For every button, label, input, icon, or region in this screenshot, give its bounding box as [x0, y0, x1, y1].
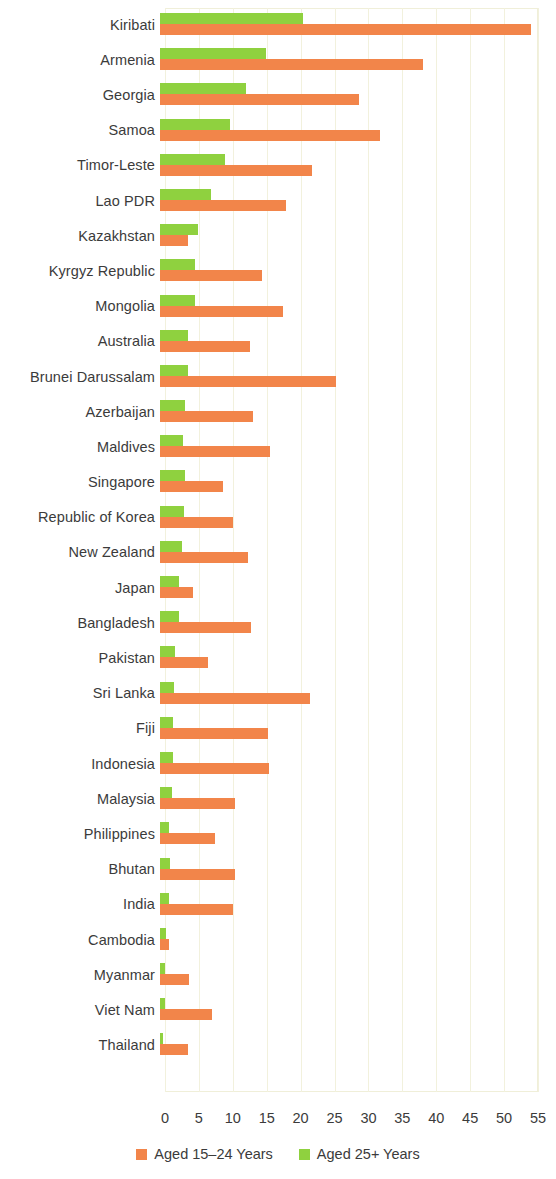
- bar-aged-15-24: [160, 1009, 212, 1020]
- bar-group: [160, 43, 556, 78]
- category-label: New Zealand: [0, 545, 160, 561]
- bar-row: Pakistan: [0, 641, 556, 676]
- bar-row: Kiribati: [0, 8, 556, 43]
- x-tick-label: 30: [360, 1110, 376, 1126]
- bar-group: [160, 430, 556, 465]
- bar-group: [160, 254, 556, 289]
- category-label: Georgia: [0, 88, 160, 104]
- bar-group: [160, 817, 556, 852]
- category-label: Mongolia: [0, 299, 160, 315]
- bar-group: [160, 78, 556, 113]
- category-label: Singapore: [0, 475, 160, 491]
- bar-aged-15-24: [160, 270, 262, 281]
- bar-aged-25-plus: [160, 858, 170, 869]
- bar-aged-15-24: [160, 59, 423, 70]
- bar-row: Samoa: [0, 114, 556, 149]
- bar-aged-25-plus: [160, 224, 198, 235]
- bar-aged-15-24: [160, 235, 188, 246]
- bar-aged-15-24: [160, 446, 270, 457]
- bar-group: [160, 395, 556, 430]
- category-label: Brunei Darussalam: [0, 370, 160, 386]
- bar-aged-15-24: [160, 165, 312, 176]
- bar-aged-15-24: [160, 798, 235, 809]
- bar-aged-25-plus: [160, 259, 195, 270]
- bar-aged-15-24: [160, 763, 269, 774]
- bar-aged-25-plus: [160, 928, 166, 939]
- bar-aged-25-plus: [160, 506, 184, 517]
- bar-aged-25-plus: [160, 295, 195, 306]
- bar-row: Georgia: [0, 78, 556, 113]
- bar-row: Bhutan: [0, 853, 556, 888]
- bar-row: Myanmar: [0, 958, 556, 993]
- bar-aged-15-24: [160, 974, 189, 985]
- bar-group: [160, 747, 556, 782]
- x-tick-label: 45: [462, 1110, 478, 1126]
- bar-aged-15-24: [160, 306, 283, 317]
- legend-item[interactable]: Aged 15–24 Years: [136, 1146, 273, 1162]
- x-tick-label: 40: [428, 1110, 444, 1126]
- bar-group: [160, 149, 556, 184]
- bar-row: Timor-Leste: [0, 149, 556, 184]
- bar-group: [160, 8, 556, 43]
- category-label: Armenia: [0, 53, 160, 69]
- category-label: Samoa: [0, 123, 160, 139]
- category-label: India: [0, 897, 160, 913]
- bar-aged-25-plus: [160, 822, 169, 833]
- bar-aged-25-plus: [160, 330, 188, 341]
- category-label: Timor-Leste: [0, 158, 160, 174]
- bar-aged-15-24: [160, 869, 235, 880]
- bar-row: Thailand: [0, 1028, 556, 1063]
- x-tick-label: 15: [259, 1110, 275, 1126]
- bar-group: [160, 606, 556, 641]
- bar-aged-15-24: [160, 939, 169, 950]
- bar-group: [160, 184, 556, 219]
- x-axis: 0510152025303540455055: [165, 1110, 538, 1134]
- bar-aged-25-plus: [160, 787, 172, 798]
- bar-aged-25-plus: [160, 400, 185, 411]
- bar-row: India: [0, 888, 556, 923]
- bar-group: [160, 923, 556, 958]
- bar-group: [160, 219, 556, 254]
- bar-aged-25-plus: [160, 470, 185, 481]
- bar-aged-15-24: [160, 130, 380, 141]
- bar-aged-25-plus: [160, 963, 165, 974]
- bar-row: Kazakhstan: [0, 219, 556, 254]
- x-tick-label: 25: [326, 1110, 342, 1126]
- x-tick-label: 10: [225, 1110, 241, 1126]
- bar-group: [160, 958, 556, 993]
- bar-row: Brunei Darussalam: [0, 360, 556, 395]
- bar-row: Singapore: [0, 465, 556, 500]
- bar-row: Azerbaijan: [0, 395, 556, 430]
- bar-row: Philippines: [0, 817, 556, 852]
- bar-group: [160, 993, 556, 1028]
- bar-aged-25-plus: [160, 893, 169, 904]
- category-label: Indonesia: [0, 757, 160, 773]
- bar-rows: KiribatiArmeniaGeorgiaSamoaTimor-LesteLa…: [0, 8, 556, 1064]
- bar-group: [160, 641, 556, 676]
- bar-aged-25-plus: [160, 365, 188, 376]
- bar-aged-15-24: [160, 376, 336, 387]
- bar-row: Kyrgyz Republic: [0, 254, 556, 289]
- bar-aged-15-24: [160, 833, 215, 844]
- x-tick-label: 0: [161, 1110, 169, 1126]
- x-tick-label: 50: [496, 1110, 512, 1126]
- bar-chart: KiribatiArmeniaGeorgiaSamoaTimor-LesteLa…: [0, 0, 556, 1179]
- category-label: Kiribati: [0, 18, 160, 34]
- legend-item[interactable]: Aged 25+ Years: [299, 1146, 420, 1162]
- x-tick-label: 55: [530, 1110, 546, 1126]
- legend-label: Aged 25+ Years: [317, 1146, 420, 1162]
- category-label: Fiji: [0, 721, 160, 737]
- bar-group: [160, 290, 556, 325]
- bar-group: [160, 677, 556, 712]
- category-label: Bangladesh: [0, 616, 160, 632]
- bar-row: Fiji: [0, 712, 556, 747]
- bar-aged-25-plus: [160, 435, 183, 446]
- bar-aged-25-plus: [160, 576, 179, 587]
- bar-group: [160, 501, 556, 536]
- category-label: Lao PDR: [0, 194, 160, 210]
- bar-row: Japan: [0, 571, 556, 606]
- bar-aged-25-plus: [160, 189, 211, 200]
- category-label: Thailand: [0, 1038, 160, 1054]
- bar-aged-15-24: [160, 728, 268, 739]
- category-label: Viet Nam: [0, 1003, 160, 1019]
